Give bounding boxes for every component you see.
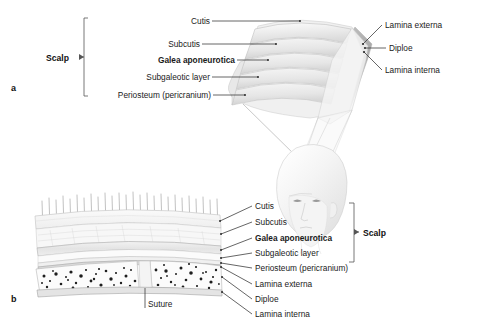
panel-b-label-cutis: Cutis [255, 202, 274, 210]
panel-b-scalp-bracket [349, 203, 359, 262]
panel-b-label-lamina-externa: Lamina externa [255, 280, 312, 288]
panel-b-label-lamina-interna: Lamina interna [255, 310, 310, 318]
panel-a-label-subgaleotic-layer: Subgaleotic layer [92, 73, 210, 81]
panel-a-label-lamina-interna: Lamina interna [385, 66, 440, 74]
panel-b-marker: b [11, 294, 17, 304]
panel-a-label-galea-aponeurotica: Galea aponeurotica [92, 56, 235, 64]
panel-b-label-diploe: Diploe [255, 295, 279, 303]
panel-a-scalp-flap-illustration [228, 20, 372, 160]
panel-a-label-subcutis: Subcutis [92, 40, 200, 48]
panel-b-label-galea-aponeurotica: Galea aponeurotica [255, 234, 332, 242]
panel-a-label-cutis: Cutis [92, 17, 210, 25]
panel-b-label-subgaleotic-layer: Subgaleotic layer [255, 249, 319, 257]
panel-b-scalp-bracket-label: Scalp [363, 228, 386, 238]
panel-a-marker: a [11, 83, 16, 93]
panel-b-label-suture: Suture [148, 300, 172, 308]
panel-a-label-lamina-externa: Lamina externa [385, 21, 442, 29]
figure-artwork [0, 0, 487, 326]
panel-b-cross-section-illustration [35, 192, 222, 297]
panel-a-label-periosteum: Periosteum (pericranium) [82, 91, 211, 99]
panel-a-label-diploe: Diploe [389, 44, 413, 52]
anatomical-figure-scalp-layers: a Scalp Cutis Subcutis Galea aponeurotic… [0, 0, 487, 326]
panel-b-label-subcutis: Subcutis [255, 218, 287, 226]
panel-a-scalp-bracket [79, 18, 88, 96]
panel-b-label-periosteum: Periosteum (pericranium) [255, 264, 348, 272]
panel-a-scalp-bracket-label: Scalp [46, 53, 69, 63]
